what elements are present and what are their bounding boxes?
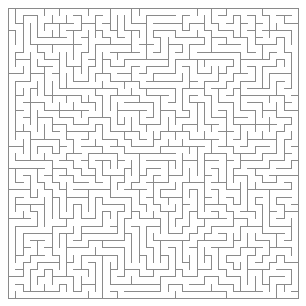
maze-walls-path xyxy=(9,9,299,299)
maze-canvas xyxy=(0,0,306,306)
maze-wall-group xyxy=(9,9,299,299)
maze-drawing xyxy=(0,0,306,306)
